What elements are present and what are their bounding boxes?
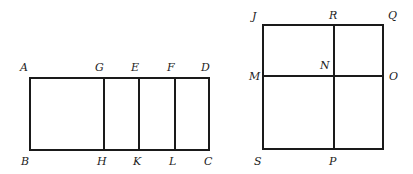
label-g: G xyxy=(95,61,104,74)
label-l: L xyxy=(168,155,176,168)
square-jqps-outline xyxy=(263,25,383,149)
label-e: E xyxy=(130,61,139,74)
label-s: S xyxy=(254,155,262,168)
label-d: D xyxy=(200,61,210,74)
label-o: O xyxy=(389,70,398,83)
label-f: F xyxy=(166,61,175,74)
label-q: Q xyxy=(388,9,397,22)
label-m: M xyxy=(248,70,261,83)
label-r: R xyxy=(328,9,337,22)
rectangle-abcd-outline xyxy=(30,78,209,150)
label-p: P xyxy=(328,155,337,168)
label-a: A xyxy=(19,61,28,74)
rectangle-abcd: A G E F D B H K L C xyxy=(19,61,213,168)
label-c: C xyxy=(204,155,213,168)
diagram-canvas: A G E F D B H K L C J R Q M N O S P xyxy=(0,0,413,174)
label-k: K xyxy=(132,155,142,168)
label-n: N xyxy=(319,59,330,72)
label-j: J xyxy=(250,10,257,23)
label-b: B xyxy=(20,155,29,168)
square-jqps: J R Q M N O S P xyxy=(248,9,398,168)
label-h: H xyxy=(96,155,107,168)
